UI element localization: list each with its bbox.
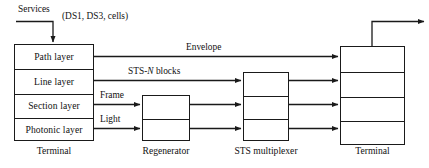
caption-terminal-left: Terminal — [14, 146, 94, 156]
layer-row-line[interactable]: Line layer — [15, 69, 93, 93]
terminal-right-cell-2[interactable] — [341, 72, 404, 97]
terminal-right-cell-4[interactable] — [341, 121, 404, 146]
sts-mux-cell-2[interactable] — [244, 96, 288, 119]
sts-blocks-suffix: blocks — [154, 66, 181, 76]
sts-blocks-prefix: STS- — [128, 66, 147, 76]
services-label: Services — [18, 5, 50, 14]
layer-label-path: Path layer — [34, 52, 74, 62]
services-detail-label: (DS1, DS3, cells) — [62, 12, 128, 21]
layer-label-section: Section layer — [28, 101, 80, 111]
regenerator-cell-upper[interactable] — [143, 96, 189, 119]
diagram-canvas: Path layer Line layer Section layer Phot… — [0, 0, 429, 168]
terminal-left-box[interactable]: Path layer Line layer Section layer Phot… — [14, 44, 94, 141]
sts-mux-cell-3[interactable] — [244, 119, 288, 142]
layer-row-section[interactable]: Section layer — [15, 94, 93, 118]
layer-row-path[interactable]: Path layer — [15, 45, 93, 69]
layer-label-photonic: Photonic layer — [25, 125, 82, 135]
envelope-label: Envelope — [186, 43, 221, 52]
layer-label-line: Line layer — [34, 77, 74, 87]
regenerator-cell-lower[interactable] — [143, 119, 189, 142]
regenerator-box[interactable] — [142, 95, 190, 141]
caption-terminal-right: Terminal — [340, 146, 405, 156]
layer-row-photonic[interactable]: Photonic layer — [15, 118, 93, 142]
caption-sts-multiplexer: STS multiplexer — [222, 146, 310, 156]
frame-label: Frame — [100, 91, 124, 100]
terminal-right-cell-3[interactable] — [341, 97, 404, 122]
terminal-right-cell-1[interactable] — [341, 47, 404, 72]
sts-mux-cell-1[interactable] — [244, 73, 288, 96]
terminal-right-box[interactable] — [340, 46, 405, 145]
services-input-connector — [16, 22, 53, 43]
caption-regenerator: Regenerator — [131, 146, 201, 156]
light-label: Light — [100, 115, 120, 124]
terminal-output-connector — [372, 22, 424, 47]
sts-blocks-label: STS-N blocks — [128, 67, 180, 76]
sts-multiplexer-box[interactable] — [243, 72, 289, 141]
